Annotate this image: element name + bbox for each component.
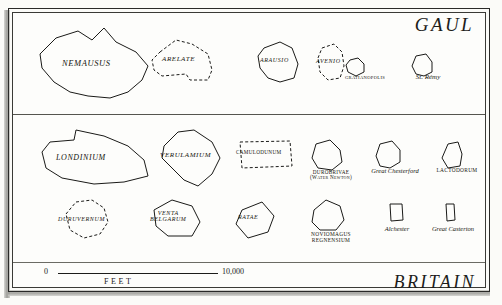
town-lactodorum: LACTODORUM — [428, 136, 486, 182]
town-outline-noviomagus — [296, 196, 366, 248]
region-title-gaul: GAUL — [415, 14, 474, 36]
town-outline-durobrivae — [300, 136, 362, 184]
town-outline-duruvernum — [54, 196, 118, 244]
scale-bar: 0 10,000 FEET — [44, 268, 244, 290]
town-noviomagus: NOVIOMAGUSREGNENSIUM — [296, 196, 366, 248]
region-divider — [13, 114, 485, 115]
town-st-r-my: St. Rémy — [404, 50, 452, 82]
town-outline-alchester — [372, 198, 422, 244]
town-outline-verulamium — [150, 124, 236, 192]
town-duruvernum: DURUVERNUM — [54, 196, 118, 244]
town-outline-arausio — [254, 38, 304, 86]
town-venta: VENTABELGARUM — [144, 196, 208, 244]
scale-unit-label: FEET — [104, 277, 134, 286]
town-outline-londinium — [32, 124, 158, 190]
town-outline-st-r-my — [404, 50, 452, 82]
town-great-chesterford: Great Chesterford — [362, 136, 428, 182]
town-outline-venta — [144, 196, 208, 244]
town-outline-gratianopolis — [338, 54, 392, 82]
town-outline-camulodunum — [234, 136, 296, 174]
town-nemausus: NEMAUSUS — [32, 26, 152, 100]
town-arausio: ARAUSIO — [254, 38, 304, 86]
town-camulodunum: CAMULODUNUM — [234, 136, 296, 174]
scale-zero-label: 0 — [44, 267, 48, 276]
town-outline-great-casterton — [422, 198, 484, 244]
town-outline-ratae — [228, 198, 282, 242]
town-verulamium: VERULAMIUM — [150, 124, 236, 192]
town-great-casterton: Great Casterton — [422, 198, 484, 244]
town-ratae: RATAE — [228, 198, 282, 242]
town-durobrivae: DUROBRIVAE(Water Newton) — [300, 136, 362, 184]
scale-max-label: 10,000 — [222, 267, 244, 276]
scale-divider — [13, 262, 485, 263]
town-arelate: ARELATE — [146, 36, 224, 88]
town-outline-great-chesterford — [362, 136, 428, 182]
town-gratianopolis: GRATIANOPOLIS — [338, 54, 392, 82]
map-plate: GAUL BRITAIN NEMAUSUSARELATEARAUSIOAVENI… — [0, 0, 502, 305]
town-outline-arelate — [146, 36, 224, 88]
region-title-britain: BRITAIN — [394, 272, 476, 293]
town-londinium: LONDINIUM — [32, 124, 158, 190]
town-alchester: Alchester — [372, 198, 422, 244]
town-outline-lactodorum — [428, 136, 486, 182]
town-outline-nemausus — [32, 26, 152, 100]
scale-bar-line — [58, 273, 218, 274]
